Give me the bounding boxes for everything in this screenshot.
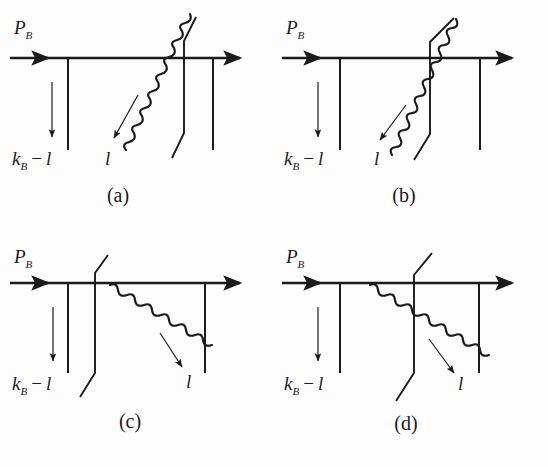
- incoming-momentum-label: PB: [13, 246, 33, 270]
- spectator-momentum-label: kB−l: [284, 148, 323, 172]
- panel-tag-d: (d): [394, 412, 417, 435]
- gluon-momentum-label: l: [458, 373, 463, 394]
- gluon-momentum-label: l: [186, 371, 191, 392]
- panel-tag-a: (a): [107, 184, 129, 207]
- panel-tag-c: (c): [119, 410, 141, 433]
- gluon-momentum-label: l: [374, 148, 379, 169]
- panel-c: PB kB−l l (c): [0, 233, 274, 466]
- panel-b: PB kB−l l (b): [274, 0, 548, 233]
- incoming-momentum-label: PB: [13, 17, 33, 41]
- gluon-momentum-arrow: [429, 339, 454, 373]
- gluon-momentum-arrow: [380, 105, 406, 140]
- spectator-momentum-label: kB−l: [284, 373, 323, 397]
- cut-line: [396, 253, 432, 401]
- incoming-momentum-label: PB: [285, 17, 305, 41]
- panel-a: PB kB−l l (a): [0, 0, 274, 233]
- incoming-momentum-label: PB: [285, 246, 305, 270]
- gluon-propagator: [370, 284, 489, 356]
- panel-d: PB kB−l l (d): [274, 233, 548, 466]
- panel-tag-b: (b): [392, 184, 415, 207]
- gluon-propagator: [124, 14, 191, 150]
- spectator-momentum-label: kB−l: [12, 148, 51, 172]
- gluon-momentum-arrow: [114, 95, 138, 138]
- cut-line: [80, 255, 108, 397]
- gluon-momentum-label: l: [105, 148, 110, 169]
- spectator-momentum-label: kB−l: [12, 373, 51, 397]
- gluon-momentum-arrow: [160, 333, 182, 367]
- gluon-propagator: [110, 284, 212, 346]
- gluon-propagator: [391, 19, 458, 155]
- cut-line: [414, 18, 454, 160]
- cut-line: [172, 17, 196, 158]
- figure-grid: PB kB−l l (a): [0, 0, 548, 467]
